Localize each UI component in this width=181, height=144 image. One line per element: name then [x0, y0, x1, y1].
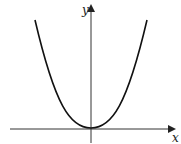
y-axis-label: y	[82, 4, 89, 16]
graph-canvas	[0, 0, 181, 144]
x-axis-label: x	[172, 132, 179, 144]
